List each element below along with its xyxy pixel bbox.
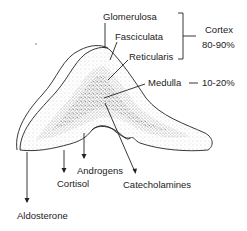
aldosterone-arrow [25,152,30,203]
label-androgens: Androgens [77,165,123,176]
label-medulla: Medulla [148,77,182,88]
adrenal-gland-diagram: Glomerulosa Fasciculata Reticularis Medu… [0,0,247,231]
label-glomerulosa: Glomerulosa [103,11,158,22]
label-reticularis: Reticularis [129,51,174,62]
label-aldosterone: Aldosterone [17,210,68,221]
label-catecholamines: Catecholamines [123,179,191,190]
label-cortex: Cortex [205,24,233,35]
speck [35,43,36,44]
label-fasciculata: Fasciculata [115,31,164,42]
label-cortisol: Cortisol [57,178,89,189]
cortex-bracket [178,13,196,59]
label-cortex-percentage: 80-90% [202,39,235,50]
label-medulla-percentage: 10-20% [202,77,235,88]
cortisol-arrow [62,150,67,173]
